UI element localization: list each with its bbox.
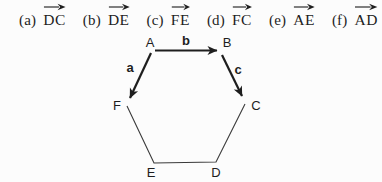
textbook-figure: (a) DC (b) DE (c) FE bbox=[0, 0, 382, 182]
vector-letters: FC bbox=[232, 11, 252, 28]
vector-letters: DE bbox=[108, 11, 130, 28]
vertex-label-b: B bbox=[223, 35, 232, 50]
vector-arrow-icon bbox=[171, 3, 190, 11]
vector-notation: FC bbox=[232, 2, 252, 29]
option-label: (b) bbox=[83, 12, 101, 29]
option-item-b: (b) DE bbox=[83, 2, 130, 29]
option-label: (e) bbox=[269, 12, 286, 29]
vector-letters: DC bbox=[43, 11, 66, 28]
option-label: (a) bbox=[19, 12, 36, 29]
option-label: (d) bbox=[207, 12, 225, 29]
vector-arrow-icon bbox=[232, 3, 252, 11]
option-label: (f) bbox=[332, 12, 348, 29]
vector-notation: DC bbox=[43, 2, 66, 29]
vector-notation: DE bbox=[108, 2, 130, 29]
edge-label-c: c bbox=[234, 62, 241, 77]
option-item-a: (a) DC bbox=[19, 2, 66, 29]
option-item-f: (f) AD bbox=[332, 2, 378, 29]
edge-label-a: a bbox=[126, 60, 134, 75]
vertex-label-a: A bbox=[146, 35, 155, 50]
vertex-label-f: F bbox=[113, 98, 121, 113]
vector-arrow-icon bbox=[43, 3, 66, 11]
option-item-c: (c) FE bbox=[147, 2, 190, 29]
option-item-d: (d) FC bbox=[207, 2, 252, 29]
vector-notation: AE bbox=[293, 2, 315, 29]
vector-notation: FE bbox=[171, 2, 190, 29]
hexagon-plain-edges bbox=[127, 104, 245, 163]
options-row: (a) DC (b) DE (c) FE bbox=[19, 2, 378, 29]
vector-letters: AE bbox=[293, 11, 315, 28]
vector-arrow-icon bbox=[108, 3, 130, 11]
edge-label-b: b bbox=[182, 33, 190, 48]
vector-arrow-icon bbox=[293, 3, 315, 11]
option-label: (c) bbox=[147, 12, 164, 29]
option-item-e: (e) AE bbox=[269, 2, 315, 29]
vertex-label-e: E bbox=[147, 165, 156, 180]
vector-notation: AD bbox=[354, 2, 377, 29]
vector-letters: FE bbox=[171, 11, 190, 28]
vector-arrow-icon bbox=[354, 3, 377, 11]
vertex-label-d: D bbox=[211, 165, 220, 180]
vector-letters: AD bbox=[354, 11, 377, 28]
hexagon-diagram: A B C D E F a b c bbox=[0, 28, 382, 182]
vertex-label-c: C bbox=[251, 98, 260, 113]
